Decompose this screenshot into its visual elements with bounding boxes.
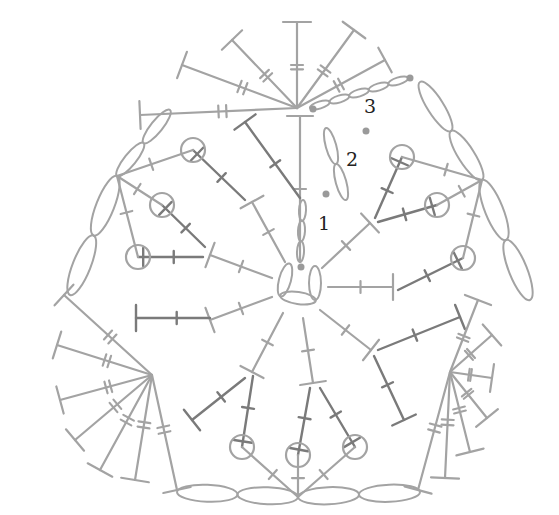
yarn-over-tick-icon <box>453 407 465 410</box>
stitch-top-bar-icon <box>290 448 308 451</box>
stitch-top-bar-icon <box>234 114 255 129</box>
stitch-top-bar-icon <box>139 101 140 129</box>
yarn-over-tick-icon <box>442 425 454 426</box>
slip-stitch-dot-icon <box>298 264 305 271</box>
double-crochet <box>162 205 205 247</box>
stitch-top-bar-icon <box>378 48 391 73</box>
center-ring <box>275 262 321 306</box>
crochet-chart: 1 2 3 <box>0 0 559 515</box>
double-crochet <box>374 356 404 420</box>
round-1-double-crochets <box>205 116 393 385</box>
slip-stitch-dot-icon <box>310 106 317 113</box>
single-crochet <box>463 180 482 258</box>
double-crochet <box>375 157 402 218</box>
yarn-over-tick-icon <box>134 184 141 194</box>
stitch-top-bar-icon <box>343 22 366 39</box>
chain-stitch-icon <box>329 93 351 106</box>
chain-stitch-icon <box>139 106 175 146</box>
stitch-top-bar-icon <box>363 340 379 360</box>
chain-stitch-icon <box>387 75 409 88</box>
stitch-top-bar-icon <box>205 243 214 267</box>
double-crochet <box>245 122 300 198</box>
double-crochet <box>378 317 460 350</box>
stitch-top-bar-icon <box>392 414 416 425</box>
yarn-over-tick-icon <box>121 211 133 214</box>
yarn-over-tick-icon <box>403 209 406 221</box>
slip-stitch-dot-icon <box>363 128 370 135</box>
chain-stitch-icon <box>298 220 306 241</box>
yarn-over-tick-icon <box>428 429 440 432</box>
double-crochet <box>193 150 245 200</box>
yarn-over-tick-icon <box>442 419 454 420</box>
single-crochet <box>298 447 355 497</box>
single-crochet <box>242 447 298 497</box>
slip-stitch-dot-icon <box>323 191 330 198</box>
chain-stitch-icon <box>413 78 458 136</box>
yarn-over-tick-icon <box>454 411 466 414</box>
stitch-top-bar-icon <box>431 477 459 478</box>
slip-stitch-dot-icon <box>407 75 414 82</box>
row-labels: 1 2 3 <box>318 95 376 234</box>
single-crochet <box>402 157 482 180</box>
single-crochet <box>437 180 482 205</box>
yarn-over-tick-icon <box>159 431 171 434</box>
row-label-1: 1 <box>318 212 330 234</box>
stitch-top-bar-icon <box>476 409 498 427</box>
stitch-top-bar-icon <box>184 410 200 430</box>
double-crochet <box>320 388 355 447</box>
chain-stitch-icon <box>177 484 238 503</box>
chain-stitch-icon <box>368 81 390 94</box>
stitch-top-bar-icon <box>234 440 252 443</box>
chain-stitch-icon <box>62 232 102 298</box>
yarn-over-tick-icon <box>109 380 112 392</box>
stitch-top-bar-icon <box>88 463 113 476</box>
yarn-over-tick-icon <box>242 407 254 409</box>
chain-stitch-icon <box>498 237 539 304</box>
yarn-over-tick-icon <box>157 425 169 428</box>
stitch-top-bar-icon <box>66 429 84 450</box>
stitch-top-bar-icon <box>465 295 491 305</box>
yarn-over-tick-icon <box>299 417 311 419</box>
yarn-over-tick-icon <box>226 105 227 117</box>
chain-stitch-icon <box>359 483 421 503</box>
stitch-top-bar-icon <box>483 324 502 345</box>
row-label-3: 3 <box>364 95 376 117</box>
stitch-top-bar-icon <box>455 305 465 329</box>
stitch-top-bar-icon <box>205 308 214 332</box>
round-3-fans <box>53 22 501 497</box>
yarn-over-tick-icon <box>468 214 480 217</box>
yarn-over-tick-icon <box>138 427 150 429</box>
yarn-over-tick-icon <box>138 421 150 423</box>
yarn-over-tick-icon <box>218 106 219 118</box>
yarn-over-tick-icon <box>270 160 280 167</box>
double-crochet <box>192 378 245 420</box>
double-crochet <box>398 258 463 290</box>
yarn-over-tick-icon <box>430 424 442 427</box>
chain-stitch-icon <box>321 127 341 166</box>
yarn-over-tick-icon <box>104 382 107 394</box>
chain-stitch-icon <box>112 139 148 179</box>
row-label-2: 2 <box>346 148 358 170</box>
stitch-top-bar-icon <box>177 52 187 78</box>
yarn-over-tick-icon <box>302 350 314 352</box>
